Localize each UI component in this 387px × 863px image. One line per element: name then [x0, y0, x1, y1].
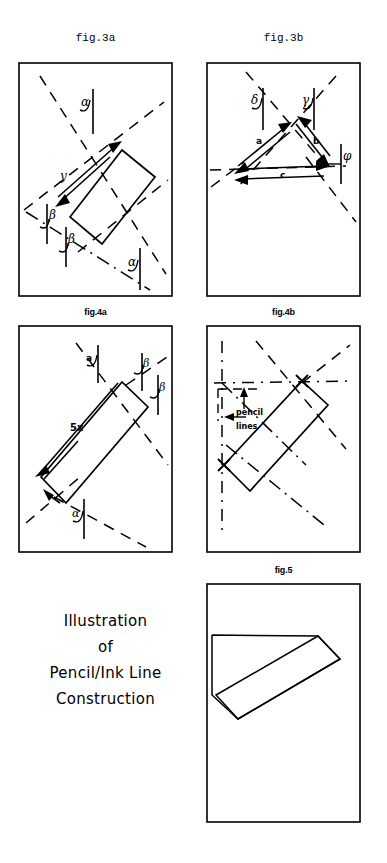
illustration-caption-line2: of [8, 634, 203, 660]
fig4b-pencil-label-line1: pencil [236, 408, 263, 417]
fig3b-svg: δ γ φ a b c [206, 62, 361, 297]
fig3a-alpha-bottom-label: α [128, 255, 136, 269]
fig4b-svg: pencil lines [206, 325, 361, 553]
fig3a-alpha-top-label: α [81, 95, 89, 109]
fig3b-delta-label: δ [251, 93, 258, 107]
fig3a-caption: fig.3a [18, 32, 173, 44]
fig5-frame [207, 584, 360, 822]
fig3b-drawing: δ γ φ a b c [206, 62, 361, 297]
fig4a-beta-lower-label: β [158, 381, 165, 394]
fig4b-drawing: pencil lines [206, 325, 361, 553]
illustration-caption-line3: Pencil/Ink Line [8, 660, 203, 686]
fig3b-side-a-label: a [256, 136, 262, 146]
fig3a-frame [19, 63, 172, 296]
fig5-svg [206, 583, 361, 823]
fig3a-beta-lower-label: β [67, 232, 75, 246]
fig4a-a-label: a [86, 353, 92, 363]
fig3a-drawing: α α β β y [18, 62, 173, 297]
fig4a-alpha-label: α [72, 507, 80, 520]
fig4a-5x-label: 5x [70, 422, 84, 433]
illustration-caption-line1: Illustration [8, 608, 203, 634]
fig3b-gamma-label: γ [302, 93, 310, 107]
fig4a-svg: a β β 5x α [18, 325, 173, 553]
fig3b-phi-label: φ [343, 149, 352, 163]
fig4a-beta-upper-label: β [142, 357, 149, 370]
fig4b-frame [207, 326, 360, 552]
fig5-drawing [206, 583, 361, 823]
fig3b-side-b-label: b [313, 136, 320, 146]
drawing-page: fig.3a α α [0, 0, 387, 863]
illustration-caption-block: Illustration of Pencil/Ink Line Construc… [8, 608, 203, 712]
fig4b-pencil-label-line2: lines [236, 422, 258, 431]
fig3a-beta-upper-label: β [48, 208, 56, 222]
fig3a-y-label: y [59, 169, 67, 183]
fig3b-side-c-label: c [280, 170, 285, 180]
fig3a-svg: α α β β y [18, 62, 173, 297]
illustration-caption-line4: Construction [8, 686, 203, 712]
fig4b-caption: fig.4b [206, 307, 361, 317]
fig4a-caption: fig.4a [18, 307, 173, 317]
fig3b-caption: fig.3b [206, 32, 361, 44]
fig5-caption: fig.5 [206, 565, 361, 575]
fig4a-drawing: a β β 5x α [18, 325, 173, 553]
